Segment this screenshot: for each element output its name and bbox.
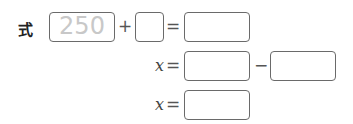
answer-input[interactable] — [184, 90, 250, 120]
minuend-input[interactable] — [184, 51, 250, 81]
equals-sign: = — [166, 94, 180, 114]
result-input[interactable] — [184, 12, 250, 42]
expression-label: 式 — [18, 18, 33, 39]
term1-input[interactable]: 250 — [49, 12, 115, 42]
equals-sign: = — [166, 55, 180, 75]
minus-sign: − — [254, 55, 268, 75]
variable-x: x — [155, 95, 164, 114]
plus-sign: + — [118, 16, 132, 36]
term2-input[interactable] — [135, 12, 164, 42]
equals-sign: = — [166, 16, 180, 36]
subtrahend-input[interactable] — [270, 51, 336, 81]
variable-x: x — [155, 56, 164, 75]
